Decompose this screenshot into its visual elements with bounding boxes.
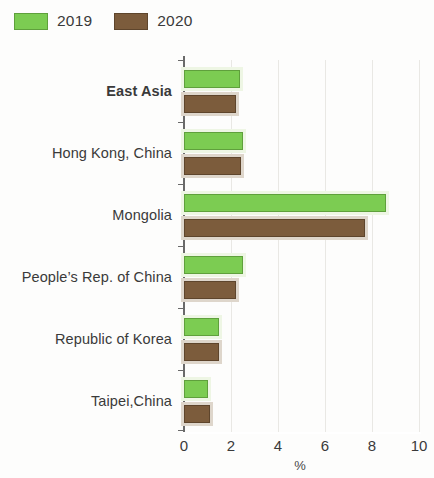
x-tick-label-2: 2 [227,437,235,454]
legend-swatch-2019-icon [14,13,48,30]
bar-hong-kong-china-2019 [184,132,243,150]
bar-taipei-china-2019 [184,380,208,398]
x-axis-title: % [294,458,306,473]
bar-taipei-china-2020 [184,405,210,423]
x-tick-label-8: 8 [368,437,376,454]
bar-east-asia-2020 [184,95,236,113]
bar-republic-of-korea-2020 [184,343,219,361]
bar-republic-of-korea-2019 [184,318,219,336]
x-tick-label-10: 10 [411,437,428,454]
legend-label-2020: 2020 [157,12,192,30]
category-label-taipei-china: Taipei,China [91,393,172,409]
bar-peoples-rep-of-china-2019 [184,256,243,274]
bar-mongolia-2019 [184,194,386,212]
x-tick-label-4: 4 [274,437,282,454]
bar-chart: 2019 2020 East Asia Hong Kong, China [0,0,434,478]
bar-group-taipei-china: Taipei,China [184,370,420,432]
legend-item-2019: 2019 [14,12,92,30]
plot-area: East Asia Hong Kong, China Mongolia Peop… [184,60,420,432]
category-label-east-asia: East Asia [106,83,172,99]
category-label-hong-kong-china: Hong Kong, China [52,145,172,161]
x-tick-label-6: 6 [321,437,329,454]
category-label-peoples-rep-of-china: People’s Rep. of China [22,269,172,285]
category-label-mongolia: Mongolia [112,207,172,223]
bar-group-mongolia: Mongolia [184,184,420,246]
x-tick-label-0: 0 [180,437,188,454]
bar-group-republic-of-korea: Republic of Korea [184,308,420,370]
bar-hong-kong-china-2020 [184,157,241,175]
legend-label-2019: 2019 [57,12,92,30]
bar-peoples-rep-of-china-2020 [184,281,236,299]
bar-group-hong-kong-china: Hong Kong, China [184,122,420,184]
chart-legend: 2019 2020 [14,12,193,30]
x-axis-line [183,432,421,434]
legend-item-2020: 2020 [114,12,192,30]
x-axis-title-wrapper: % [0,458,434,473]
bar-group-peoples-rep-of-china: People’s Rep. of China [184,246,420,308]
bar-mongolia-2020 [184,219,365,237]
bar-group-east-asia: East Asia [184,60,420,122]
legend-swatch-2020-icon [114,13,148,30]
category-label-republic-of-korea: Republic of Korea [55,331,172,347]
bar-east-asia-2019 [184,70,240,88]
